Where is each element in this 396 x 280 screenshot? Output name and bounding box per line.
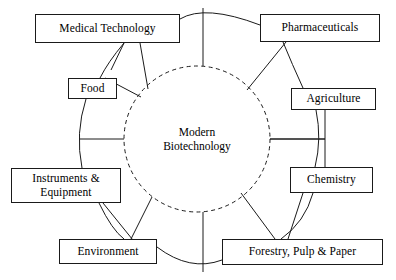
spoke-forestry-pulp-paper xyxy=(241,193,275,239)
spoke-medical-technology xyxy=(140,43,148,89)
node-pharmaceuticals[interactable]: Pharmaceuticals xyxy=(260,14,380,42)
node-agriculture[interactable]: Agriculture xyxy=(291,88,376,110)
arc-agriculture-to-pharmaceuticals xyxy=(283,42,303,88)
arc-medical-to-food xyxy=(100,43,124,78)
node-instruments-equipment[interactable]: Instruments & Equipment xyxy=(11,168,121,203)
arc-environment-to-forestry xyxy=(157,247,222,264)
spoke-instruments-equipment xyxy=(131,197,152,239)
node-medical-technology[interactable]: Medical Technology xyxy=(35,14,180,43)
arc-instruments-to-environment xyxy=(99,203,124,239)
diagram-canvas: Medical Technology Pharmaceuticals Food … xyxy=(0,0,396,280)
node-environment[interactable]: Environment xyxy=(59,239,157,264)
node-chemistry[interactable]: Chemistry xyxy=(290,167,373,193)
node-forestry-pulp-paper[interactable]: Forestry, Pulp & Paper xyxy=(222,239,383,265)
arc-forestry-to-chemistry xyxy=(281,193,313,239)
arc-medical-to-pharmaceuticals xyxy=(180,13,260,25)
spoke-chemistry-lower xyxy=(288,193,303,239)
spoke-pharmaceuticals xyxy=(247,42,286,90)
arc-food-to-instruments xyxy=(79,99,86,168)
center-label: Modern Biotechnology xyxy=(147,125,247,154)
node-food[interactable]: Food xyxy=(68,78,117,99)
